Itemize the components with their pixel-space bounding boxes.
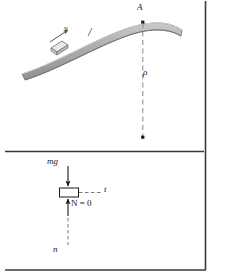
label-tangential-axis-t: t [104,185,107,194]
fbd-block [60,188,79,197]
label-normal-axis-n: n [53,245,58,254]
label-normal-force-N: N = 0 [71,199,92,208]
ramp-bottom-edge-shadow [25,30,181,80]
curved-ramp-surface [22,23,182,80]
label-weight-mg: mg [47,157,58,166]
label-radius-rho: ρ [143,68,147,77]
ramp-diagram-graphics [22,21,182,139]
center-of-curvature-marker [141,136,144,139]
sliding-block [51,41,68,55]
label-velocity-v: v [64,25,68,33]
physics-figure: A v ρ mg t N = 0 n [0,0,225,277]
tangent-tick-mark [88,28,92,36]
label-point-a: A [137,3,143,12]
figure-canvas [0,0,225,277]
